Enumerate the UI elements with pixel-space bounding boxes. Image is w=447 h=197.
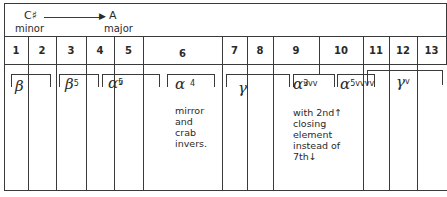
col-divider <box>28 36 29 191</box>
col-divider <box>417 36 418 191</box>
column-number: 12 <box>389 45 417 57</box>
column-number: 4 <box>86 45 114 57</box>
col-divider <box>389 36 390 191</box>
from-key: C♯ <box>24 11 37 21</box>
arrow-head-icon: ▶ <box>99 11 106 21</box>
col-divider <box>247 36 248 191</box>
group-symbol: α 4 <box>175 76 195 92</box>
col-divider <box>56 36 57 191</box>
column-number: 9 <box>273 45 319 57</box>
header-top-line <box>4 36 447 37</box>
column-number: 2 <box>28 45 56 57</box>
column-number: 6 <box>143 48 222 60</box>
column-number: 13 <box>417 45 446 57</box>
group-symbol: α5vvvv <box>340 76 374 92</box>
modulation-arrow-icon <box>44 17 102 18</box>
frame-bottom <box>4 190 447 191</box>
column-number: 11 <box>363 45 389 57</box>
group-symbol: α5v <box>108 75 123 91</box>
col-divider <box>273 36 274 191</box>
column-number: 3 <box>56 45 86 57</box>
group-symbol: α3vvv <box>293 76 317 92</box>
column-number: 7 <box>222 45 247 57</box>
from-mode: minor <box>15 24 44 34</box>
to-key: A <box>109 11 117 21</box>
column-number: 1 <box>4 45 28 57</box>
group-symbol: γ <box>238 80 247 96</box>
to-mode: major <box>104 24 133 34</box>
col-divider <box>222 36 223 191</box>
column-number: 10 <box>319 45 363 57</box>
header-bottom-line <box>4 64 447 65</box>
column-number: 5 <box>114 45 143 57</box>
col-divider <box>363 36 364 191</box>
frame-left <box>4 3 5 191</box>
note-mirror-crab: mirror and crab invers. <box>175 105 207 149</box>
group-bracket-gamma <box>226 74 290 87</box>
col-divider <box>86 36 87 191</box>
note-closing-element: with 2nd↑ closing element instead of 7th… <box>293 107 342 162</box>
group-symbol: β <box>15 78 24 94</box>
group-symbol: γv <box>396 74 410 90</box>
group-symbol: β5 <box>65 76 79 92</box>
col-divider <box>114 36 115 191</box>
column-number: 8 <box>247 45 273 57</box>
frame-top <box>4 3 447 4</box>
